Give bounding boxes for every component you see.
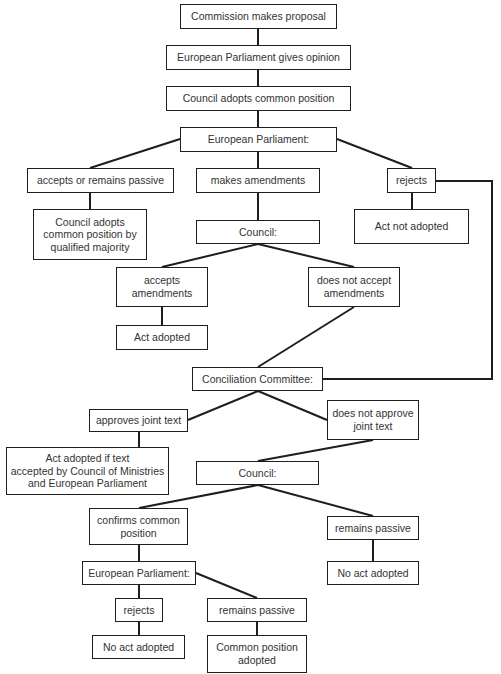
flow-node-n26: Common position adopted bbox=[207, 635, 307, 673]
flow-node-n18: Council: bbox=[196, 461, 319, 485]
flow-node-n3: Council adopts common position bbox=[166, 86, 351, 111]
flow-node-n4: European Parliament: bbox=[180, 127, 337, 152]
flow-node-n15: approves joint text bbox=[89, 409, 188, 432]
connector-n16-n18 bbox=[258, 440, 373, 461]
codecision-flowchart: Commission makes proposalEuropean Parlia… bbox=[0, 0, 501, 674]
connector-n4-n5 bbox=[90, 139, 180, 168]
connector-n10-n11 bbox=[162, 244, 258, 267]
connector-n14-n15 bbox=[188, 391, 258, 420]
flow-node-n14: Conciliation Committee: bbox=[192, 367, 323, 391]
flow-node-n25: No act adopted bbox=[92, 635, 185, 659]
flow-node-n10: Council: bbox=[196, 220, 320, 244]
flow-node-n23: rejects bbox=[115, 598, 163, 622]
flow-node-n9: Act not adopted bbox=[354, 209, 469, 244]
flow-node-n6: makes amendments bbox=[196, 168, 320, 193]
flow-node-n7: rejects bbox=[387, 168, 436, 193]
flow-node-n13: Act adopted bbox=[116, 325, 208, 350]
flow-node-n17: Act adopted if text accepted by Council … bbox=[6, 447, 169, 495]
flow-node-n2: European Parliament gives opinion bbox=[166, 45, 351, 70]
flow-node-n16: does not approve joint text bbox=[327, 400, 419, 440]
connector-n18-n20 bbox=[258, 485, 373, 516]
flow-node-n24: remains passive bbox=[207, 598, 307, 622]
flow-node-n12: does not accept amendments bbox=[308, 267, 400, 307]
flow-node-n5: accepts or remains passive bbox=[27, 168, 174, 193]
flow-node-n21: European Parliament: bbox=[82, 561, 196, 585]
flow-node-n8: Council adopts common position by qualif… bbox=[33, 209, 147, 260]
connector-n4-n7 bbox=[337, 139, 412, 168]
flow-node-n22: No act adopted bbox=[327, 561, 419, 585]
flow-node-n11: accepts amendments bbox=[116, 267, 208, 307]
connector-n21-n24 bbox=[196, 573, 257, 598]
connector-n10-n12 bbox=[258, 244, 354, 267]
connector-n14-n16 bbox=[258, 391, 327, 420]
connector-n12-n14 bbox=[258, 307, 354, 367]
flow-node-n19: confirms common position bbox=[89, 508, 188, 545]
flow-node-n20: remains passive bbox=[327, 516, 419, 540]
flow-node-n1: Commission makes proposal bbox=[180, 4, 337, 29]
